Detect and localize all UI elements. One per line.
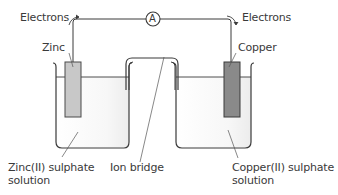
ion-bridge-label: Ion bridge: [110, 161, 164, 174]
copper-label: Copper: [238, 41, 276, 54]
ion-bridge-leader: [140, 57, 164, 162]
copper-electrode: [224, 62, 240, 117]
ammeter-label: A: [149, 12, 156, 25]
electron-arrow-right-icon: [227, 16, 238, 25]
zinc-solution-label-line2: solution: [8, 174, 50, 187]
copper-solution-label-line2: solution: [232, 174, 274, 187]
zinc-electrode: [65, 62, 81, 117]
electrons-right-label: Electrons: [242, 11, 291, 24]
zinc-solution-label-line1: Zinc(II) sulphate: [8, 161, 94, 174]
copper-solution-label-line1: Copper(II) sulphate: [232, 161, 334, 174]
electrons-left-label: Electrons: [20, 11, 69, 24]
right-beaker: [173, 63, 254, 148]
zinc-label: Zinc: [42, 41, 65, 54]
ion-bridge: [126, 58, 178, 90]
